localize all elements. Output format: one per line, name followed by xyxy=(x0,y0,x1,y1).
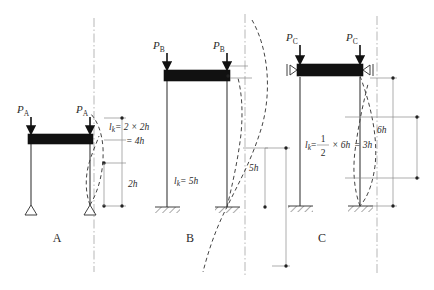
panel-a-formula-line1: lk= 2 × 2h xyxy=(109,122,149,134)
panel-a-letter: A xyxy=(53,231,62,245)
panel-c-dim-dot-top xyxy=(391,76,394,79)
panel-a: PA PA xyxy=(16,18,149,272)
panel-a-dim-label: 2h xyxy=(128,179,138,189)
panel-c-formula-tail: = 3h xyxy=(354,140,373,150)
panel-c-right-support-fixed xyxy=(348,206,373,212)
panel-c-left-support-fixed xyxy=(288,206,313,212)
panel-c-left-load-label: PC xyxy=(285,31,298,46)
panel-a-formula-line2: = 4h xyxy=(126,136,145,146)
panel-b-buckling-curve xyxy=(203,20,267,272)
panel-b-dim-dot-outer-bottom xyxy=(284,264,287,267)
panel-c-formula-head: lk= xyxy=(305,140,316,152)
panel-a-beam xyxy=(28,134,93,144)
panel-a-buckling-curve xyxy=(90,113,103,205)
figure-canvas: PA PA xyxy=(0,0,434,290)
panel-b-left-load-label: PB xyxy=(152,39,165,54)
panel-c-formula-numerator: 1 xyxy=(321,134,326,144)
panel-a-left-load-label: PA xyxy=(16,103,30,118)
panel-a-left-support-pinned xyxy=(25,205,37,215)
panel-b: PB PB xyxy=(152,14,290,276)
panel-b-buckling-curve-inner xyxy=(227,78,242,207)
panel-c-dim-dot-upper xyxy=(415,115,418,118)
panel-c-formula-mid: × 6h xyxy=(332,140,351,150)
panel-b-beam xyxy=(164,70,230,81)
panel-c-dim-label: 6h xyxy=(377,125,387,135)
panel-a-dim-dot-top xyxy=(120,116,123,119)
panel-b-formula: lk= 5h xyxy=(174,176,199,188)
panel-c-dim-dot-lower xyxy=(415,176,418,179)
panel-c: PC PC xyxy=(285,16,420,274)
panel-c-beam xyxy=(297,64,363,76)
panel-c-left-beam-roller-support xyxy=(287,64,297,76)
panel-a-dim-dot-base xyxy=(120,204,123,207)
buckling-length-figure: PA PA xyxy=(0,0,434,290)
panel-a-buckling-curve-lower xyxy=(86,136,99,205)
panel-b-right-support-fixed xyxy=(215,207,240,213)
panel-b-dim-dot-beam xyxy=(226,74,229,77)
panel-c-formula: lk= 1 2 × 6h = 3h xyxy=(305,134,373,158)
panel-b-right-load-label: PB xyxy=(212,39,225,54)
panel-b-left-support-fixed xyxy=(155,207,180,213)
panel-b-letter: B xyxy=(186,231,194,245)
panel-c-right-beam-roller-support xyxy=(363,64,373,76)
panel-b-dim-dot-base xyxy=(263,205,266,208)
panel-b-dim-dot-outer-top xyxy=(284,146,287,149)
panel-c-formula-denominator: 2 xyxy=(321,148,326,158)
panel-c-right-load-label: PC xyxy=(345,31,358,46)
panel-c-dim-dot-base xyxy=(391,204,394,207)
panel-b-dim-label: 5h xyxy=(249,163,259,173)
panel-c-letter: C xyxy=(318,231,326,245)
panel-a-right-load-label: PA xyxy=(75,103,89,118)
